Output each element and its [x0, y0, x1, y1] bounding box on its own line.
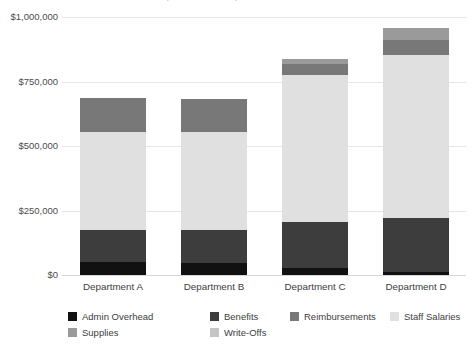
legend-label: Staff Salaries: [404, 311, 460, 322]
bar-segment[interactable]: [80, 262, 146, 275]
y-axis: $1,000,000$750,000$500,000$250,000$0: [0, 0, 58, 345]
bar-segment[interactable]: [282, 59, 348, 64]
bar-segment[interactable]: [80, 230, 146, 262]
legend-label: Write-Offs: [224, 327, 266, 338]
legend-item[interactable]: Write-Offs: [210, 324, 266, 340]
chart-legend: Admin OverheadBenefitsReimbursementsStaf…: [0, 308, 475, 345]
bar-segment[interactable]: [383, 55, 449, 218]
legend-label: Supplies: [82, 327, 118, 338]
bar-segment[interactable]: [181, 99, 247, 132]
stacked-bar-chart: Departmental Expense Breakdown $1,000,00…: [0, 0, 475, 345]
y-tick-label: $750,000: [0, 77, 58, 87]
bar-segment[interactable]: [383, 272, 449, 275]
legend-label: Admin Overhead: [82, 311, 153, 322]
bar-segment[interactable]: [80, 132, 146, 230]
gridline: [62, 275, 466, 276]
legend-swatch-icon: [210, 312, 219, 321]
legend-swatch-icon: [68, 312, 77, 321]
legend-swatch-icon: [290, 312, 299, 321]
legend-swatch-icon: [210, 328, 219, 337]
bar-group[interactable]: [282, 17, 348, 275]
bar-segment[interactable]: [282, 64, 348, 75]
bar-segment[interactable]: [181, 263, 247, 275]
bar-segment[interactable]: [383, 218, 449, 272]
bar-group[interactable]: [80, 17, 146, 275]
legend-item[interactable]: Admin Overhead: [68, 308, 153, 324]
bar-group[interactable]: [383, 17, 449, 275]
legend-item[interactable]: Benefits: [210, 308, 258, 324]
legend-swatch-icon: [68, 328, 77, 337]
bar-segment[interactable]: [80, 98, 146, 132]
y-tick-label: $1,000,000: [0, 12, 58, 22]
x-axis: Department ADepartment BDepartment CDepa…: [62, 281, 466, 295]
legend-row-1: Admin OverheadBenefitsReimbursementsStaf…: [0, 308, 475, 324]
legend-swatch-icon: [390, 312, 399, 321]
plot-area: [62, 17, 466, 275]
bar-segment[interactable]: [282, 222, 348, 268]
bar-group[interactable]: [181, 17, 247, 275]
legend-item[interactable]: Reimbursements: [290, 308, 376, 324]
bar-segment[interactable]: [383, 40, 449, 54]
x-tick-label: Department D: [351, 281, 475, 293]
y-tick-label: $0: [0, 270, 58, 280]
y-tick-label: $500,000: [0, 141, 58, 151]
legend-label: Reimbursements: [304, 311, 376, 322]
y-tick-label: $250,000: [0, 206, 58, 216]
legend-row-2: SuppliesWrite-Offs: [0, 324, 475, 340]
bar-segment[interactable]: [181, 230, 247, 263]
bar-segment[interactable]: [282, 268, 348, 275]
legend-item[interactable]: Staff Salaries: [390, 308, 460, 324]
bar-segment[interactable]: [181, 132, 247, 230]
legend-label: Benefits: [224, 311, 258, 322]
chart-title: Departmental Expense Breakdown: [0, 0, 475, 1]
bar-segment[interactable]: [383, 28, 449, 40]
bar-segment[interactable]: [282, 75, 348, 222]
legend-item[interactable]: Supplies: [68, 324, 118, 340]
